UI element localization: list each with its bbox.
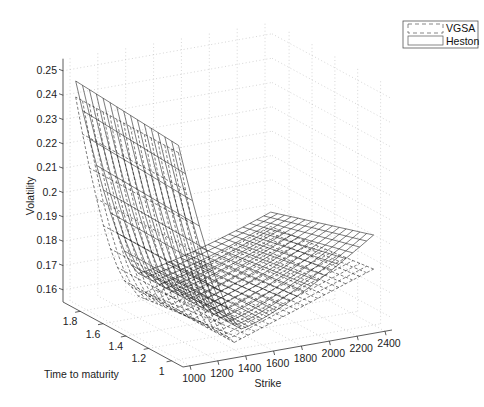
- volatility-surface-chart: 0.160.170.180.190.20.210.220.230.240.251…: [0, 0, 484, 407]
- x-tick-label: 2200: [349, 342, 373, 354]
- z-tick-label: 0.18: [37, 234, 58, 246]
- z-tick-label: 0.17: [37, 259, 58, 271]
- legend: VGSA Heston: [403, 21, 479, 48]
- y-tick-label: 1: [159, 365, 165, 377]
- axes: 0.160.170.180.190.20.210.220.230.240.251…: [37, 59, 401, 384]
- z-tick-label: 0.22: [37, 137, 58, 149]
- z-tick-label: 0.2: [42, 186, 57, 198]
- z-axis-label: Volatility: [24, 176, 36, 215]
- z-tick-label: 0.23: [37, 113, 58, 125]
- y-tick-label: 1.2: [131, 352, 146, 364]
- x-tick-label: 2400: [377, 337, 401, 349]
- z-tick-label: 0.21: [37, 161, 58, 173]
- legend-label-heston: Heston: [446, 35, 479, 47]
- y-tick-label: 1.6: [86, 328, 101, 340]
- legend-label-vgsa: VGSA: [446, 22, 475, 34]
- grid-lines: [63, 23, 392, 366]
- surfaces: [76, 81, 374, 342]
- y-tick-label: 1.8: [63, 315, 78, 327]
- x-tick-label: 1200: [210, 367, 234, 379]
- x-tick-label: 1000: [182, 372, 206, 384]
- z-tick-label: 0.16: [37, 283, 58, 295]
- z-tick-label: 0.25: [37, 64, 58, 76]
- x-tick-label: 1600: [266, 357, 290, 369]
- x-axis-label: Strike: [255, 377, 282, 389]
- z-tick-label: 0.24: [37, 88, 58, 100]
- y-axis-label: Time to maturity: [44, 368, 120, 380]
- y-tick-label: 1.4: [109, 340, 124, 352]
- x-tick-label: 1800: [294, 352, 318, 364]
- surface-heston: [76, 81, 374, 329]
- x-tick-label: 1400: [238, 362, 262, 374]
- x-tick-label: 2000: [322, 347, 346, 359]
- z-tick-label: 0.19: [37, 210, 58, 222]
